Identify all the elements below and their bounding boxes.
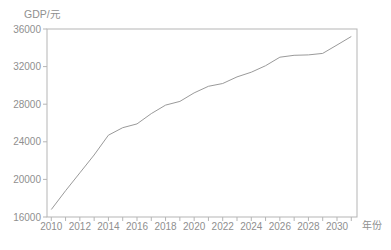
x-tick-label: 2022 [212, 221, 235, 232]
gdp-line-chart-canvas: GDP/元 年份 1600020000240002800032000360002… [0, 0, 391, 250]
y-tick-label: 28000 [13, 99, 41, 110]
x-tick-label: 2016 [126, 221, 149, 232]
x-tick-label: 2014 [97, 221, 120, 232]
x-tick-label: 2020 [183, 221, 206, 232]
y-tick-label: 32000 [13, 61, 41, 72]
x-tick-label: 2010 [40, 221, 63, 232]
x-tick-label: 2018 [154, 221, 177, 232]
x-tick-label: 2028 [297, 221, 320, 232]
x-tick-label: 2012 [69, 221, 92, 232]
y-tick-label: 36000 [13, 24, 41, 35]
gdp-forecast-figure: GDP/元 年份 1600020000240002800032000360002… [0, 0, 391, 250]
x-tick-label: 2024 [240, 221, 263, 232]
y-tick-label: 24000 [13, 136, 41, 147]
plot-border [47, 29, 357, 217]
x-axis-title: 年份 [362, 219, 382, 231]
y-tick-label: 20000 [13, 174, 41, 185]
y-axis-title: GDP/元 [24, 8, 61, 20]
y-tick-label: 16000 [13, 212, 41, 223]
x-tick-label: 2026 [269, 221, 292, 232]
x-tick-label: 2030 [326, 221, 349, 232]
